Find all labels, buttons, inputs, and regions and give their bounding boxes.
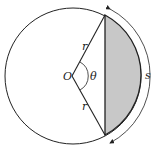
angle-label: θ (90, 71, 97, 82)
shaded-segment (105, 15, 141, 135)
radius-top-label: r (82, 41, 87, 52)
angle-arc (80, 62, 88, 90)
radius-top (72, 15, 105, 76)
radius-bottom (72, 76, 105, 135)
circle-segment-diagram: O r r θ s (0, 0, 152, 152)
diagram-graphic (0, 0, 152, 152)
arc-length-label: s (145, 70, 151, 81)
center-label: O (63, 71, 72, 82)
radius-bottom-label: r (82, 101, 87, 112)
